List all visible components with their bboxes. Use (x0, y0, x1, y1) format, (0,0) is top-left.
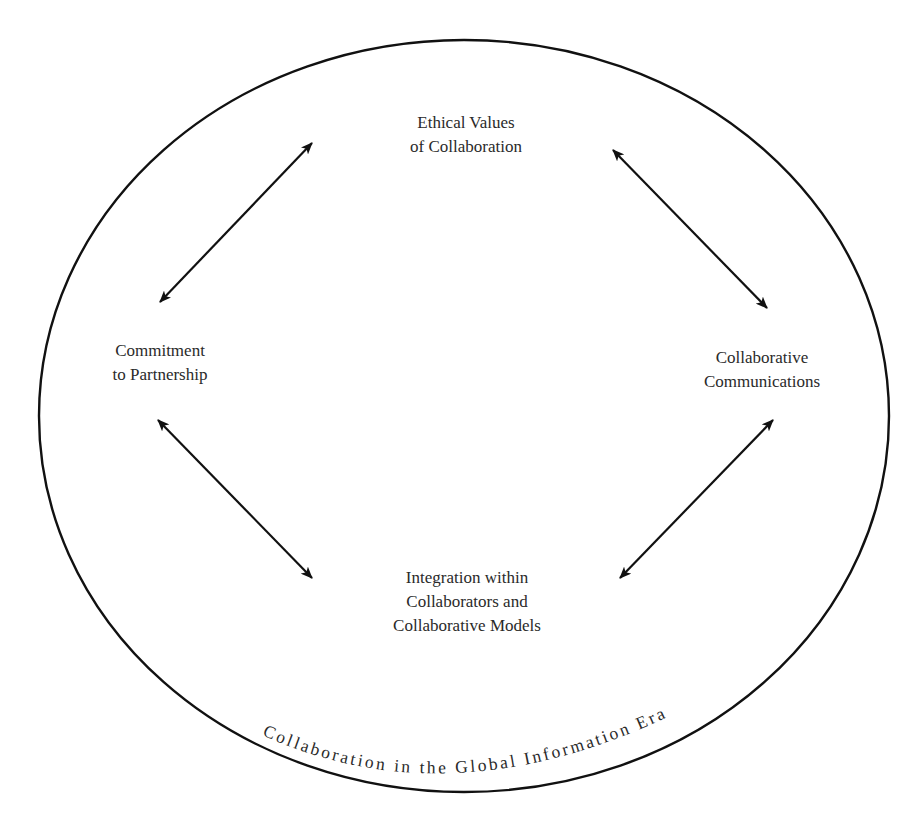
arrow-bottom-right-icon (620, 420, 773, 578)
arrow-left-top-icon (160, 143, 312, 302)
diagram-title-curved: Collaboration in the Global Information … (260, 702, 670, 777)
node-collaborative-communications: Collaborative Communications (704, 346, 820, 394)
diagram-title-path: Collaboration in the Global Information … (260, 702, 670, 777)
node-ethical-values-line-2: of Collaboration (410, 135, 522, 159)
node-commitment-line-1: Commitment (113, 339, 208, 363)
node-commitment-to-partnership: Commitment to Partnership (113, 339, 208, 387)
node-integration-line-2: Collaborators and (393, 590, 541, 614)
node-communications-line-2: Communications (704, 370, 820, 394)
node-ethical-values: Ethical Values of Collaboration (410, 111, 522, 159)
arrow-top-right-icon (613, 150, 767, 308)
node-ethical-values-line-1: Ethical Values (410, 111, 522, 135)
node-communications-line-1: Collaborative (704, 346, 820, 370)
collaboration-diagram: Collaboration in the Global Information … (0, 0, 919, 823)
node-integration-line-3: Collaborative Models (393, 614, 541, 638)
arrows-layer (158, 143, 773, 578)
node-integration-line-1: Integration within (393, 566, 541, 590)
node-commitment-line-2: to Partnership (113, 363, 208, 387)
arrow-left-bottom-icon (158, 420, 312, 578)
node-integration-within-collaborators: Integration within Collaborators and Col… (393, 566, 541, 638)
